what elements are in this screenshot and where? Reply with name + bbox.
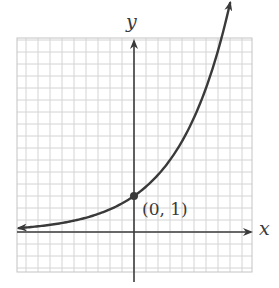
point-0-1-marker — [130, 192, 138, 200]
x-axis-label: x — [259, 219, 270, 238]
point-label: (0, 1) — [142, 201, 188, 218]
y-axis-label: y — [126, 12, 137, 31]
graph-canvas — [0, 0, 279, 288]
axes — [17, 41, 251, 282]
